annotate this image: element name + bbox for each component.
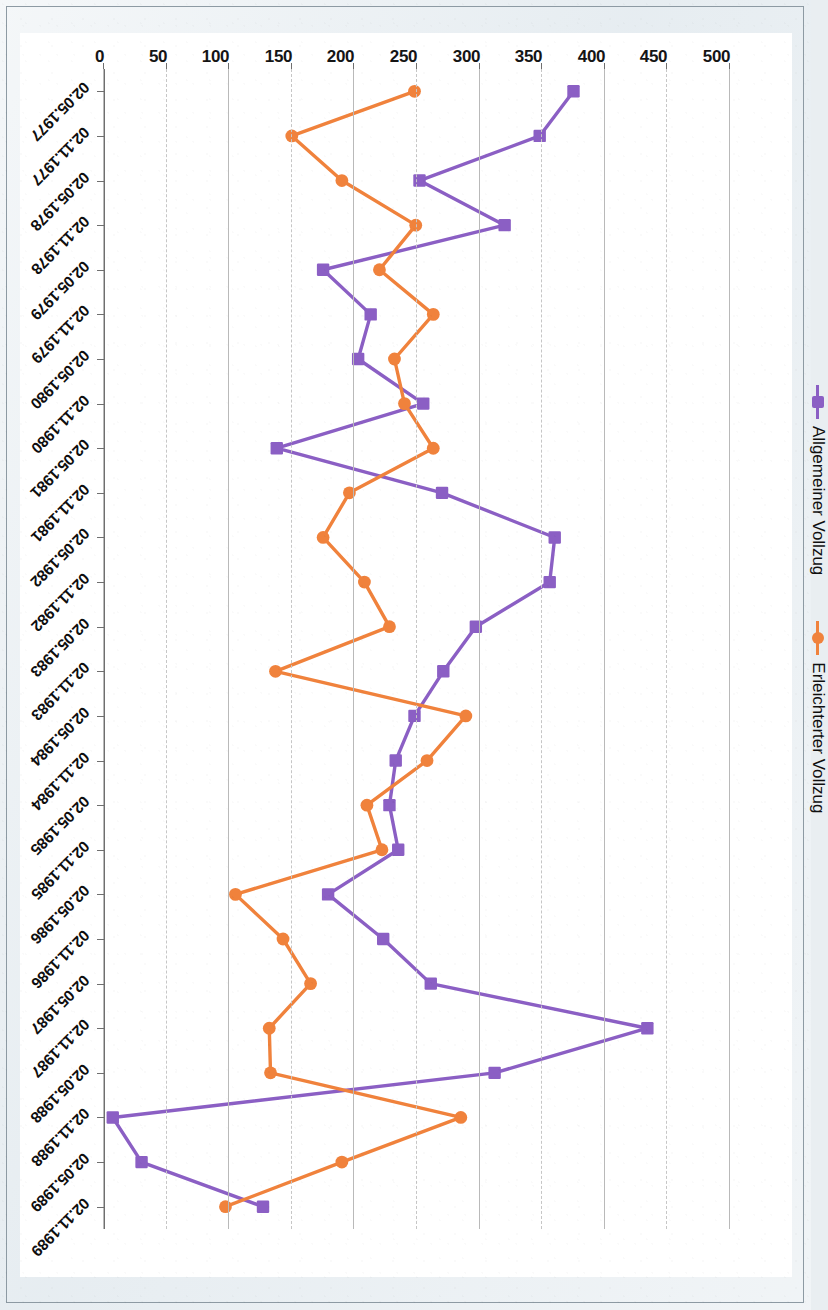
category-tick: [97, 225, 104, 226]
data-point-marker: [375, 843, 388, 856]
series-line: [112, 91, 647, 1206]
data-point-marker: [135, 1156, 147, 1168]
legend-item-label: Allgemeiner Vollzug: [808, 426, 828, 575]
legend-marker-icon: [812, 396, 824, 408]
data-point-marker: [373, 263, 386, 276]
value-axis-label: 300: [452, 47, 479, 67]
value-gridline: [665, 69, 667, 1229]
category-tick: [97, 1162, 104, 1163]
data-point-marker: [256, 1200, 268, 1212]
legend-swatch-circle-icon: [816, 621, 819, 655]
value-gridline: [603, 69, 604, 1229]
category-tick: [97, 359, 104, 360]
series-line: [225, 91, 465, 1206]
value-gridline: [415, 69, 417, 1229]
data-point-marker: [360, 799, 373, 812]
data-point-marker: [641, 1022, 653, 1034]
value-gridline: [353, 69, 354, 1229]
category-tick: [97, 716, 104, 717]
data-point-marker: [388, 353, 401, 366]
data-point-marker: [469, 620, 481, 632]
rotated-chart-stage: 050100150200250300350400450500 Allgemein…: [20, 33, 792, 1277]
category-tick: [97, 850, 104, 851]
legend-marker-icon: [812, 632, 824, 644]
value-axis-label: 350: [515, 47, 542, 67]
value-gridline: [289, 69, 291, 1229]
value-axis-label: 450: [640, 47, 667, 67]
value-axis-label: 500: [702, 47, 729, 67]
data-point-marker: [364, 308, 376, 320]
data-point-marker: [435, 487, 447, 499]
data-point-marker: [398, 397, 411, 410]
legend-item-allgemeiner-vollzug[interactable]: Allgemeiner Vollzug: [808, 385, 828, 575]
series-erleichterter-vollzug: [219, 85, 472, 1213]
data-point-marker: [498, 219, 510, 231]
data-point-marker: [408, 85, 421, 98]
data-point-marker: [437, 665, 449, 677]
data-point-marker: [454, 1111, 467, 1124]
series-allgemeiner-vollzug: [106, 85, 653, 1213]
data-point-marker: [316, 264, 328, 276]
data-point-marker: [383, 620, 396, 633]
value-axis-label: 0: [94, 47, 103, 67]
category-tick: [97, 404, 104, 405]
data-point-marker: [262, 1022, 275, 1035]
data-point-marker: [270, 442, 282, 454]
data-point-marker: [106, 1111, 118, 1123]
category-tick: [97, 537, 104, 538]
data-point-marker: [321, 888, 333, 900]
category-tick: [97, 1117, 104, 1118]
category-tick: [97, 1073, 104, 1074]
data-point-marker: [229, 888, 242, 901]
category-tick: [97, 1207, 104, 1208]
value-gridline: [228, 69, 229, 1229]
data-point-marker: [264, 1066, 277, 1079]
category-tick: [97, 805, 104, 806]
data-point-marker: [424, 977, 436, 989]
data-point-marker: [383, 799, 395, 811]
plot-area: 050100150200250300350400450500: [104, 69, 730, 1229]
category-tick: [97, 894, 104, 895]
legend-swatch-square-icon: [816, 385, 819, 419]
value-gridline: [164, 69, 166, 1229]
value-gridline: [103, 69, 104, 1229]
category-tick: [97, 314, 104, 315]
data-point-marker: [488, 1067, 500, 1079]
chart-legend: Allgemeiner VollzugErleichterter Vollzug: [808, 385, 828, 814]
category-tick: [97, 136, 104, 137]
category-tick: [97, 939, 104, 940]
category-tick: [97, 671, 104, 672]
category-tick: [97, 627, 104, 628]
category-tick: [97, 493, 104, 494]
legend-item-erleichterter-vollzug[interactable]: Erleichterter Vollzug: [808, 621, 828, 813]
data-point-marker: [376, 933, 388, 945]
data-point-marker: [389, 754, 401, 766]
data-point-marker: [392, 844, 404, 856]
category-tick: [97, 761, 104, 762]
value-gridline: [540, 69, 542, 1229]
value-axis-label: 200: [327, 47, 354, 67]
data-point-marker: [543, 576, 555, 588]
data-point-marker: [417, 397, 429, 409]
value-axis-label: 50: [148, 47, 166, 67]
data-point-marker: [567, 85, 579, 97]
value-gridline: [478, 69, 479, 1229]
category-tick: [97, 91, 104, 92]
value-axis-label: 100: [202, 47, 229, 67]
value-axis-label: 400: [577, 47, 604, 67]
category-tick: [97, 1028, 104, 1029]
value-gridline: [729, 69, 730, 1229]
value-axis-label: 250: [389, 47, 416, 67]
data-point-marker: [316, 531, 329, 544]
data-point-marker: [269, 665, 282, 678]
data-point-marker: [408, 710, 420, 722]
category-tick: [97, 582, 104, 583]
data-point-marker: [335, 1156, 348, 1169]
category-tick: [97, 181, 104, 182]
value-axis-label: 150: [264, 47, 291, 67]
legend-item-label: Erleichterter Vollzug: [808, 662, 828, 813]
category-tick: [97, 984, 104, 985]
category-tick: [97, 270, 104, 271]
category-tick: [97, 448, 104, 449]
